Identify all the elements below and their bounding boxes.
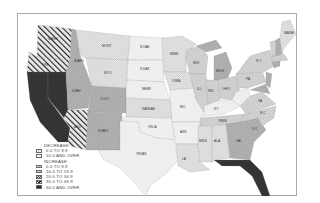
swatch-decrease-0-9 bbox=[36, 149, 42, 153]
svg-text:WIS: WIS bbox=[193, 61, 199, 65]
svg-text:N DAK: N DAK bbox=[140, 45, 151, 49]
state-wash bbox=[37, 25, 72, 60]
svg-text:IDAHO: IDAHO bbox=[74, 59, 85, 63]
swatch-increase-20-34 bbox=[36, 175, 42, 179]
svg-text:ARIZ: ARIZ bbox=[74, 125, 81, 129]
state-maine bbox=[280, 20, 296, 54]
svg-text:FLA: FLA bbox=[248, 169, 255, 173]
svg-text:MONT: MONT bbox=[102, 44, 111, 48]
swatch-increase-35-49 bbox=[36, 180, 42, 184]
svg-text:S DAK: S DAK bbox=[140, 67, 150, 71]
map-legend: DECREASE 0.0 TO 9.9 10.0 AND OVER INCREA… bbox=[36, 143, 106, 190]
swatch-increase-50-over bbox=[36, 185, 42, 189]
svg-text:N C: N C bbox=[260, 111, 266, 115]
svg-text:CALIF: CALIF bbox=[36, 95, 45, 99]
svg-text:MO: MO bbox=[180, 105, 186, 109]
svg-text:IND: IND bbox=[208, 89, 214, 93]
state-nj bbox=[266, 72, 272, 88]
svg-text:ALA: ALA bbox=[214, 139, 221, 143]
state-ny bbox=[236, 50, 274, 74]
legend-item: 50.0 AND OVER bbox=[36, 185, 106, 190]
svg-text:WASH: WASH bbox=[48, 37, 58, 41]
svg-text:MINN: MINN bbox=[170, 52, 179, 56]
svg-text:ILL: ILL bbox=[197, 87, 202, 91]
swatch-increase-10-19 bbox=[36, 170, 42, 174]
svg-text:KANSAS: KANSAS bbox=[142, 107, 155, 111]
svg-text:TEXAS: TEXAS bbox=[136, 152, 146, 156]
svg-text:MICH: MICH bbox=[216, 69, 225, 73]
svg-text:WYO: WYO bbox=[104, 71, 112, 75]
state-miss bbox=[198, 126, 212, 162]
svg-text:IOWA: IOWA bbox=[172, 79, 181, 83]
swatch-decrease-10-over bbox=[36, 154, 42, 158]
svg-text:N MEX: N MEX bbox=[98, 129, 109, 133]
svg-text:NEBR: NEBR bbox=[142, 87, 152, 91]
svg-text:N Y: N Y bbox=[256, 59, 262, 63]
svg-text:ARK: ARK bbox=[180, 130, 187, 134]
svg-text:OKLA: OKLA bbox=[148, 125, 157, 129]
svg-text:UTAH: UTAH bbox=[72, 89, 81, 93]
swatch-increase-0-9 bbox=[36, 165, 42, 169]
svg-text:S C: S C bbox=[252, 127, 258, 131]
svg-text:MISS: MISS bbox=[199, 139, 207, 143]
state-s-dak bbox=[127, 60, 164, 82]
svg-text:TENN: TENN bbox=[218, 119, 227, 123]
svg-text:OHIO: OHIO bbox=[222, 87, 231, 91]
svg-text:COLO: COLO bbox=[100, 97, 110, 101]
svg-text:ORE: ORE bbox=[42, 63, 49, 67]
svg-text:NEV: NEV bbox=[54, 87, 61, 91]
state-fla bbox=[214, 160, 270, 196]
svg-text:MAINE: MAINE bbox=[284, 31, 294, 35]
